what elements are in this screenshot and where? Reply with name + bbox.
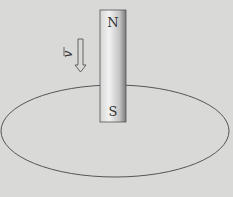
magnet-loop-diagram: N S v [0,0,233,197]
bar-magnet: N S [100,10,126,122]
loop-front-arc [1,131,229,177]
velocity-arrow-icon [75,39,86,72]
north-pole-label: N [107,15,118,30]
svg-text:v: v [61,50,75,57]
south-pole-label: S [109,104,118,119]
velocity-label: v [61,47,75,57]
